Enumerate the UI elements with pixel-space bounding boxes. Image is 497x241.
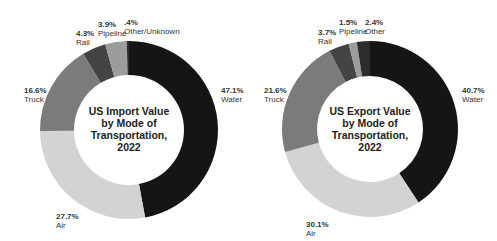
title-line: Transportation, (84, 129, 174, 141)
label-name: Water (221, 96, 244, 105)
label-rail: 4.3% Rail (76, 30, 94, 47)
label-name: Truck (24, 96, 47, 105)
title-line: 2022 (325, 141, 415, 153)
title-line: 2022 (84, 141, 174, 153)
title-line: US Export Value (325, 105, 415, 117)
label-other: .4% Other/Unknown (124, 19, 180, 36)
label-name: Other (365, 28, 385, 37)
label-name: Rail (318, 38, 336, 47)
label-water: 47.1% Water (221, 87, 244, 104)
label-name: Water (462, 96, 485, 105)
label-rail: 3.7% Rail (318, 29, 336, 46)
label-name: Truck (264, 96, 287, 105)
segment-air (285, 143, 418, 217)
import-chart-title: US Import Value by Mode of Transportatio… (84, 105, 174, 153)
label-name: Air (56, 222, 79, 231)
label-name: Pipeline (339, 28, 367, 37)
export-donut-chart: US Export Value by Mode of Transportatio… (250, 0, 497, 241)
title-line: by Mode of (325, 117, 415, 129)
label-air: 30.1% Air (306, 221, 329, 238)
title-line: Transportation, (325, 129, 415, 141)
label-truck: 21.6% Truck (264, 87, 287, 104)
label-air: 27.7% Air (56, 213, 79, 230)
title-line: by Mode of (84, 117, 174, 129)
label-pipeline: 3.9% Pipeline (98, 21, 126, 38)
label-name: Pipeline (98, 30, 126, 39)
label-other: 2.4% Other (365, 19, 385, 36)
label-name: Air (306, 230, 329, 239)
label-pipeline: 1.5% Pipeline (339, 19, 367, 36)
label-water: 40.7% Water (462, 87, 485, 104)
export-chart-title: US Export Value by Mode of Transportatio… (325, 105, 415, 153)
label-name: Rail (76, 39, 94, 48)
import-donut-chart: US Import Value by Mode of Transportatio… (0, 0, 250, 241)
label-truck: 16.6% Truck (24, 87, 47, 104)
title-line: US Import Value (84, 105, 174, 117)
label-name: Other/Unknown (124, 28, 180, 37)
